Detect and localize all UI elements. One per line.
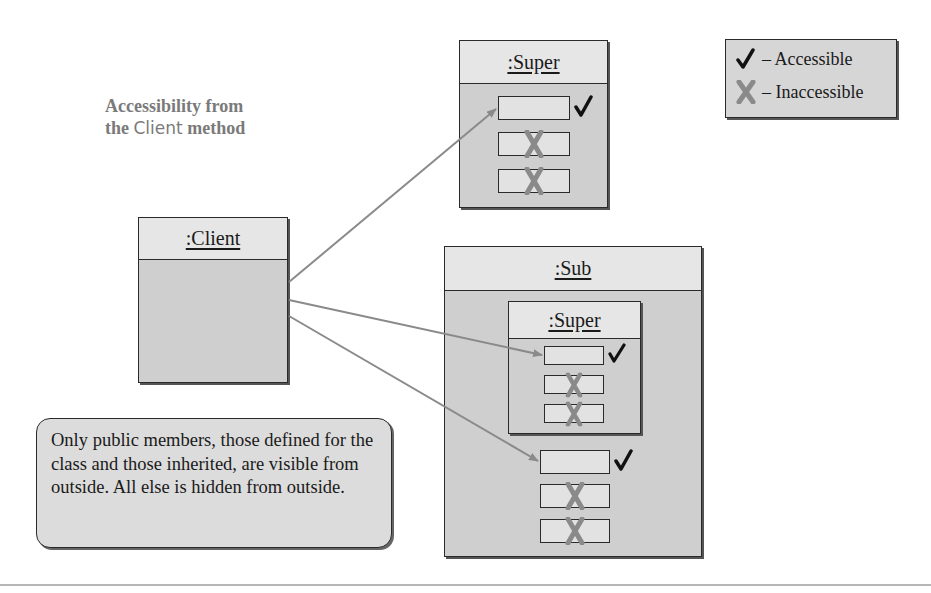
arrow-client-to-super <box>289 109 496 282</box>
bottom-divider <box>0 584 931 586</box>
explanation-callout: Only public members, those defined for t… <box>36 418 392 548</box>
callout-text: Only public members, those defined for t… <box>51 430 373 497</box>
arrow-client-to-inner-super <box>289 300 542 355</box>
